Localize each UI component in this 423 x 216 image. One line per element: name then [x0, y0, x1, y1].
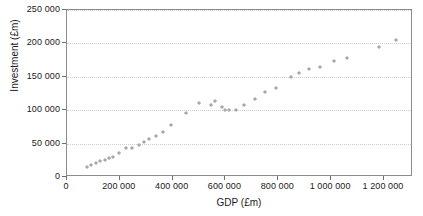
- x-tick-label: 200 000: [102, 181, 135, 191]
- x-tick-mark: [383, 176, 384, 180]
- data-point: [209, 103, 213, 107]
- data-point: [394, 38, 398, 42]
- y-tick-label: 50 000: [32, 138, 60, 148]
- data-point: [263, 90, 267, 94]
- data-point: [124, 146, 128, 150]
- plot-area: [66, 9, 412, 176]
- data-point: [130, 146, 134, 150]
- data-point: [242, 103, 246, 107]
- x-tick-mark: [330, 176, 331, 180]
- y-tick-label: 150 000: [27, 71, 60, 81]
- y-tick-label: 250 000: [27, 4, 60, 14]
- data-point: [307, 67, 311, 71]
- data-point: [161, 130, 165, 134]
- data-point: [289, 75, 293, 79]
- y-tick-mark: [62, 9, 66, 10]
- data-point: [102, 158, 106, 162]
- y-tick-mark: [62, 76, 66, 77]
- x-tick-mark: [66, 176, 67, 180]
- data-point: [213, 99, 217, 103]
- data-point: [89, 163, 93, 167]
- x-tick-label: 0: [63, 181, 68, 191]
- data-point: [184, 111, 188, 115]
- x-tick-label: 1 200 000: [362, 181, 403, 191]
- x-tick-label: 1 000 000: [310, 181, 351, 191]
- x-tick-mark: [119, 176, 120, 180]
- gridline: [67, 110, 411, 111]
- data-point: [137, 143, 141, 147]
- data-point: [332, 59, 336, 63]
- data-point: [318, 65, 322, 69]
- gridline: [67, 77, 411, 78]
- data-point: [252, 96, 256, 100]
- data-point: [345, 56, 349, 60]
- data-point: [274, 86, 278, 90]
- data-point: [227, 108, 231, 112]
- x-tick-mark: [224, 176, 225, 180]
- data-point: [297, 71, 301, 75]
- gridline: [67, 43, 411, 44]
- y-tick-mark: [62, 109, 66, 110]
- x-tick-mark: [277, 176, 278, 180]
- data-point: [93, 161, 97, 165]
- data-point: [117, 150, 121, 154]
- data-point: [154, 133, 158, 137]
- y-tick-label: 0: [55, 171, 60, 181]
- y-tick-label: 100 000: [27, 104, 60, 114]
- data-point: [85, 165, 89, 169]
- x-tick-label: 400 000: [155, 181, 188, 191]
- gridline: [67, 10, 411, 11]
- data-point: [168, 123, 172, 127]
- data-point: [377, 45, 381, 49]
- data-point: [197, 101, 201, 105]
- x-axis-title: GDP (£m): [66, 197, 412, 208]
- data-point: [111, 155, 115, 159]
- y-axis-title: Investment (£m): [9, 0, 20, 116]
- scatter-chart-figure: 050 000100 000150 000200 000250 000 0200…: [0, 0, 423, 216]
- x-tick-mark: [172, 176, 173, 180]
- data-point: [98, 159, 102, 163]
- x-tick-label: 800 000: [261, 181, 294, 191]
- data-point: [147, 136, 151, 140]
- y-tick-label: 200 000: [27, 37, 60, 47]
- x-tick-label: 600 000: [208, 181, 241, 191]
- y-tick-mark: [62, 42, 66, 43]
- gridline: [67, 144, 411, 145]
- y-tick-mark: [62, 143, 66, 144]
